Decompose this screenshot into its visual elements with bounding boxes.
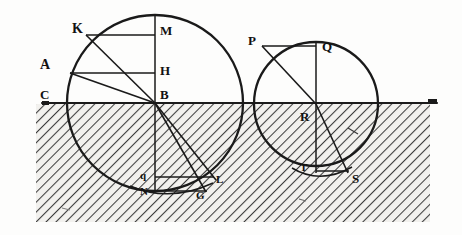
label-G: G <box>196 190 205 201</box>
label-S: S <box>352 172 359 185</box>
hatched-ground-region <box>36 104 430 222</box>
ground-hatch-fill <box>36 104 430 222</box>
radius-B-A <box>70 73 155 103</box>
label-B: B <box>160 88 169 101</box>
ground-line-right-terminal <box>428 99 437 104</box>
label-Q: Q <box>322 40 332 53</box>
label-P: P <box>248 34 256 47</box>
geometry-figure: K M A H C B q N L G P Q R T S <box>0 0 462 235</box>
label-M: M <box>160 24 172 37</box>
label-R: R <box>300 110 309 123</box>
label-C: C <box>40 88 49 101</box>
figure-canvas <box>0 0 462 235</box>
label-A: A <box>40 58 50 72</box>
label-H: H <box>160 64 170 77</box>
label-T: T <box>300 162 307 173</box>
radius-B-K <box>86 35 155 103</box>
label-K: K <box>72 22 83 36</box>
radius-R-P <box>262 46 316 104</box>
label-N: N <box>140 186 148 197</box>
label-L: L <box>216 174 223 185</box>
label-q: q <box>140 170 146 181</box>
